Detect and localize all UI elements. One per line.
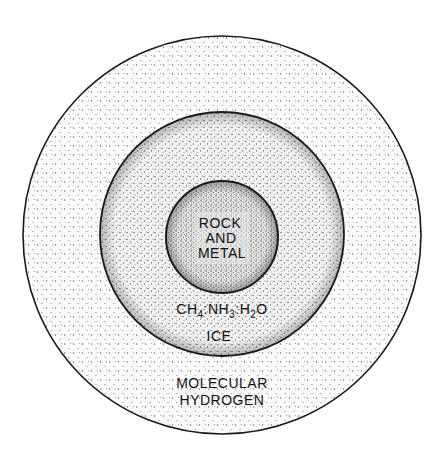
core-label-and: AND [205,230,236,246]
core-label-rock: ROCK [199,215,242,231]
formula-o: O [256,301,267,317]
formula-nh: :NH [204,301,230,317]
formula-ch: CH [176,301,197,317]
core-label-metal: METAL [198,245,246,261]
ice-label: ICE [207,328,232,344]
formula-h: :H [235,301,250,317]
outer-label-molecular: MOLECULAR [176,375,268,391]
layer-diagram: ROCK AND METAL CH4:NH3:H2O ICE MOLECULAR… [0,0,439,459]
outer-label-hydrogen: HYDROGEN [180,392,265,408]
